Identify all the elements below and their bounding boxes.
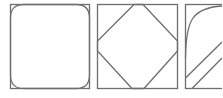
panel-2-octagon-shape (98, 5, 178, 89)
panel-1-frame (11, 5, 90, 89)
panel-3-diagonal-lower (192, 58, 222, 89)
panel-1-rounded-square (11, 5, 90, 89)
panel-1-rounded-shape (11, 5, 90, 89)
panel-2-frame (98, 5, 178, 89)
panel-2-diamond (98, 5, 178, 89)
panel-3-curves (186, 5, 223, 89)
diagram-canvas (0, 0, 222, 98)
diagram-svg (0, 0, 222, 98)
panel-3-ease-curve (186, 6, 223, 58)
panel-3-diagonal-upper (186, 42, 223, 78)
